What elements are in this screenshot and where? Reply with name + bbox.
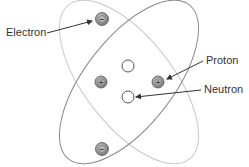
neutron-label: Neutron xyxy=(204,84,243,95)
plus-icon: + xyxy=(99,78,104,87)
proton-right: + xyxy=(152,76,164,88)
neutron-bottom xyxy=(122,91,134,103)
proton-left: + xyxy=(95,76,107,88)
proton-label: Proton xyxy=(206,55,238,66)
electron-bottom: − xyxy=(96,143,109,156)
electron-label: Electron xyxy=(6,27,46,38)
neutron-arrow xyxy=(136,90,201,97)
electron-top: − xyxy=(96,13,109,26)
minus-icon: − xyxy=(100,15,105,24)
orbit-a xyxy=(34,0,224,167)
neutron-top xyxy=(122,60,134,72)
minus-icon: − xyxy=(100,145,105,154)
orbit-b xyxy=(34,0,224,167)
electron-arrow xyxy=(47,21,92,33)
atom-diagram: + + − − Electron Proton Neutron xyxy=(0,0,249,167)
plus-icon: + xyxy=(156,78,161,87)
